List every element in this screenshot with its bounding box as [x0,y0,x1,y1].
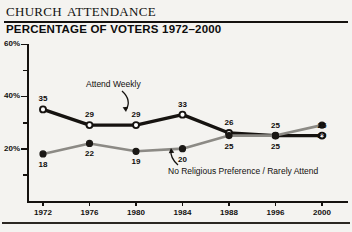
series-lines [0,38,352,220]
data-point-marker [180,112,186,118]
data-point-marker [87,140,93,146]
data-point-value: 20 [178,155,187,164]
annotation-attend-weekly: Attend Weekly [86,79,141,89]
page-title: Church Attendance [6,0,156,21]
data-point-value: 25 [271,142,280,151]
data-point-value: 19 [132,157,141,166]
data-point-value: 25 [318,121,327,130]
plot-area: 20%40%60% 1972197619801984198819962000 3… [0,38,352,220]
annotation-no-religious-preference: No Religious Preference / Rarely Attend [168,166,318,176]
data-point-marker [273,133,279,139]
data-point-marker [40,151,46,157]
data-point-marker [226,133,232,139]
footer-divider [2,222,350,224]
data-point-marker [40,106,46,112]
data-point-marker [180,146,186,152]
chart-subtitle: PERCENTAGE OF VOTERS 1972–2000 [6,23,221,35]
data-point-marker [133,148,139,154]
data-point-value: 25 [271,121,280,130]
data-point-value: 33 [178,100,187,109]
data-point-value: 29 [132,110,141,119]
data-point-value: 18 [39,160,48,169]
data-point-value: 22 [85,149,94,158]
data-point-value: 35 [39,94,48,103]
annotation-arrow-head [123,107,128,112]
data-point-value: 29 [318,131,327,140]
chart-figure: Church Attendance PERCENTAGE OF VOTERS 1… [0,0,352,232]
data-point-marker [87,122,93,128]
data-point-value: 26 [225,118,234,127]
data-point-value: 25 [225,142,234,151]
data-point-value: 29 [85,110,94,119]
data-point-marker [133,122,139,128]
